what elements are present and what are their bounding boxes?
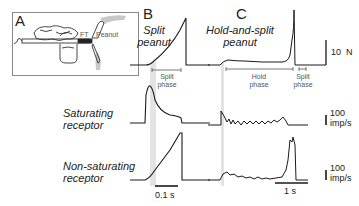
row-label-saturating: Saturating receptor: [63, 107, 113, 131]
saturating-trace-b: [130, 86, 210, 123]
ft-label: FT: [80, 31, 89, 38]
rate-scale-label-1: 100 imp/s: [330, 108, 352, 128]
time-scale-label-c: 1 s: [284, 186, 296, 196]
rate-scale-label-2: 100 imp/s: [330, 163, 352, 183]
hold-phase-arrow-c: [226, 67, 293, 71]
split-phase-arrow-c: [299, 67, 306, 71]
peanut-label: Peanut: [96, 31, 118, 38]
figure-graphics: [0, 0, 359, 206]
hold-phase-label-c: Hold phase: [244, 73, 274, 89]
panel-b-condition: Split peanut: [132, 24, 176, 48]
panel-b-letter: B: [143, 6, 153, 21]
force-scale-label: 10 N: [331, 47, 353, 57]
split-phase-arrow-b: [152, 68, 181, 72]
row-label-nonsaturating: Non-saturating receptor: [63, 160, 135, 184]
split-phase-label-c: Split phase: [289, 73, 317, 89]
nonsaturating-trace-b: [130, 133, 210, 180]
panel-c-condition: Hold-and-split peanut: [206, 24, 274, 48]
time-scale-label-b: 0.1 s: [155, 190, 175, 200]
apparatus-illustration: [14, 15, 126, 70]
split-phase-label-b: Split phase: [152, 73, 182, 89]
panel-c-letter: C: [236, 6, 247, 21]
